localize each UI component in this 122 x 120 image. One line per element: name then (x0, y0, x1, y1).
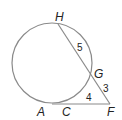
label-point-H: H (55, 10, 64, 24)
label-point-G: G (94, 67, 103, 81)
geometry-diagram: H G F A C 5 3 4 (0, 0, 122, 120)
length-GF: 3 (103, 83, 109, 94)
label-point-F: F (107, 105, 115, 119)
length-HG: 5 (77, 42, 83, 53)
label-point-A: A (36, 105, 45, 119)
circle (12, 23, 92, 103)
label-point-C: C (62, 105, 71, 119)
length-CF: 4 (86, 92, 92, 103)
